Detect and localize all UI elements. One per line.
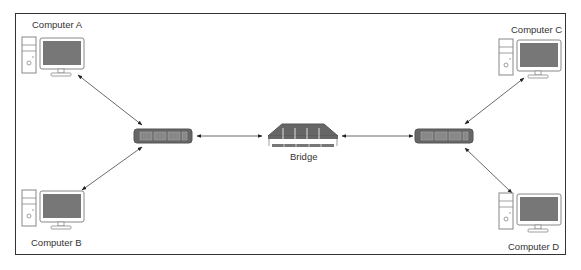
left-switch-icon	[134, 129, 192, 143]
computer-c-label: Computer C	[511, 24, 562, 35]
right-switch-icon	[415, 129, 473, 143]
computer-d-icon	[499, 193, 561, 232]
computer-d-label: Computer D	[508, 241, 559, 252]
computer-a-label: Computer A	[32, 19, 82, 30]
computer-b-label: Computer B	[31, 237, 82, 248]
computer-b-icon	[22, 190, 84, 229]
bridge-icon	[268, 124, 338, 147]
bridge-label: Bridge	[290, 151, 317, 162]
computer-a-icon	[22, 37, 84, 76]
computer-c-icon	[499, 39, 561, 78]
network-diagram	[0, 0, 581, 270]
